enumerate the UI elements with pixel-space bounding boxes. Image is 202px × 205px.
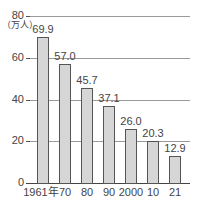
bar-value-label: 26.0 — [114, 116, 148, 127]
bar-value-label: 37.1 — [92, 93, 126, 104]
y-tick-label: 80 — [2, 10, 24, 21]
y-tick-label: 20 — [2, 135, 24, 146]
gridline — [30, 16, 190, 17]
y-tick — [26, 58, 30, 59]
bar-value-label: 57.0 — [48, 51, 82, 62]
bar-value-label: 69.9 — [26, 24, 60, 35]
bar-value-label: 12.9 — [158, 143, 192, 154]
bar-value-label: 20.3 — [136, 128, 170, 139]
bar — [169, 156, 181, 184]
x-category-label: 21 — [158, 187, 192, 198]
y-tick — [26, 100, 30, 101]
y-tick — [26, 16, 30, 17]
y-tick-label: 60 — [2, 52, 24, 63]
y-tick-label: 40 — [2, 94, 24, 105]
bar-chart: （万人） 02040608069.91961年57.07045.78037.19… — [0, 0, 202, 205]
y-tick — [26, 141, 30, 142]
bar-value-label: 45.7 — [70, 75, 104, 86]
